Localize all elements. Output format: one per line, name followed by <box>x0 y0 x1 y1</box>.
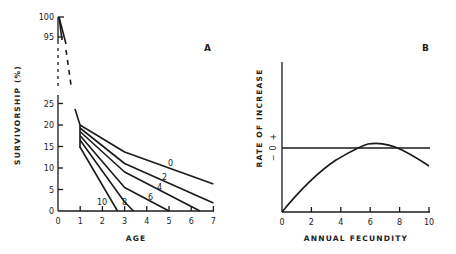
x-tick-label-2: 2 <box>100 217 105 226</box>
early-mortality-dashed <box>66 50 71 85</box>
panel-a: A 100 95 25 20 15 10 5 0 <box>13 13 216 243</box>
y-tick-label-0: 0 <box>49 207 54 216</box>
y-axis-title: SURVIVORSHIP (%) <box>13 65 22 165</box>
curve-label-10: 10 <box>97 198 107 207</box>
x-tick-label-b-2: 2 <box>309 218 314 227</box>
lead-in-line <box>75 109 80 148</box>
negative-marker: − <box>269 155 278 162</box>
y-tick-label-100: 100 <box>39 13 54 22</box>
zero-marker: 0 <box>269 145 278 150</box>
curve-fecundity-0 <box>80 125 213 184</box>
y-tick-label-5: 5 <box>49 186 54 195</box>
x-axis-title-b: ANNUAL FECUNDITY <box>304 234 408 243</box>
x-tick-label-6: 6 <box>189 217 194 226</box>
x-tick-label-7: 7 <box>211 217 216 226</box>
y-tick-label-15: 15 <box>44 143 54 152</box>
x-tick-label-b-0: 0 <box>279 218 284 227</box>
curve-label-6: 6 <box>148 193 153 202</box>
x-tick-label-1: 1 <box>78 217 83 226</box>
y-tick-label-20: 20 <box>44 121 54 130</box>
curve-fecundity-2 <box>80 128 213 203</box>
x-axis-title: AGE <box>126 234 147 243</box>
y-ticks-lower <box>58 104 63 190</box>
panel-b: B 0 2 4 6 8 10 ANNUAL FECUNDITY RATE OF … <box>255 43 434 243</box>
positive-marker: + <box>269 134 278 141</box>
y-tick-label-95: 95 <box>44 33 54 42</box>
curve-label-4: 4 <box>157 183 162 192</box>
x-tick-label-b-4: 4 <box>338 218 343 227</box>
y-tick-label-10: 10 <box>44 164 54 173</box>
x-tick-label-5: 5 <box>166 217 171 226</box>
panel-b-label: B <box>422 43 429 53</box>
panel-a-label: A <box>204 43 211 53</box>
x-tick-label-b-6: 6 <box>368 218 373 227</box>
x-tick-label-4: 4 <box>144 217 149 226</box>
x-tick-label-3: 3 <box>122 217 127 226</box>
curve-label-8: 8 <box>122 198 127 207</box>
y-tick-label-25: 25 <box>44 100 54 109</box>
curve-label-2: 2 <box>162 173 167 182</box>
x-tick-label-0: 0 <box>55 217 60 226</box>
y-axis-title-b: RATE OF INCREASE <box>255 69 264 168</box>
x-tick-label-b-10: 10 <box>424 218 434 227</box>
x-tick-label-b-8: 8 <box>397 218 402 227</box>
rate-curve <box>282 143 429 212</box>
x-ticks-b <box>311 207 429 212</box>
curve-label-0: 0 <box>168 159 173 168</box>
figure: A 100 95 25 20 15 10 5 0 <box>0 0 456 254</box>
